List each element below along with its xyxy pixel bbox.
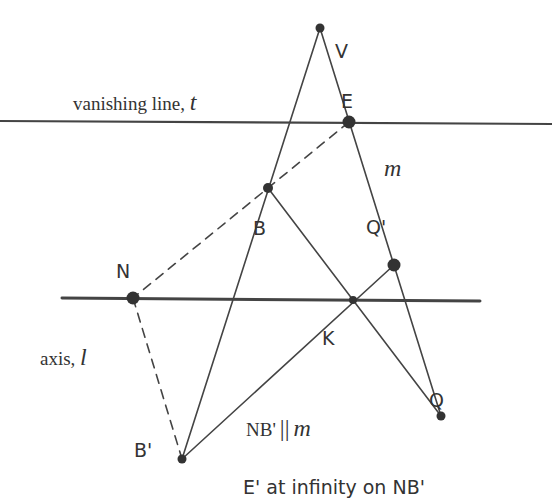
point-Qprime <box>388 259 401 272</box>
axis-label: axis, l <box>40 345 87 369</box>
label-Bprime: B' <box>134 441 152 460</box>
point-Q <box>437 412 446 421</box>
parallel-annotation: NB' || m <box>246 416 311 440</box>
vanishing-line-t <box>0 121 552 124</box>
infinity-note: E' at infinity on NB' <box>243 478 425 497</box>
axis-label-text: axis, <box>40 348 80 369</box>
point-N <box>127 292 140 305</box>
label-B: B <box>253 219 266 238</box>
axis-line-l <box>62 298 480 301</box>
vanishing-line-var-t: t <box>190 89 197 115</box>
point-K <box>349 296 357 304</box>
vanishing-line-label: vanishing line, t <box>73 90 196 114</box>
dashed-line-E-N <box>133 122 349 298</box>
point-Bprime <box>178 455 187 464</box>
label-K: K <box>322 329 334 348</box>
point-B <box>263 183 273 193</box>
point-E <box>343 116 356 129</box>
label-E: E <box>341 92 353 111</box>
parallel-left: NB' <box>246 419 276 440</box>
vanishing-line-label-text: vanishing line, <box>73 93 190 114</box>
line-m-label: m <box>384 156 401 180</box>
line-V-Bprime <box>182 28 320 459</box>
label-Qprime: Q' <box>366 218 386 237</box>
label-N: N <box>116 262 130 281</box>
axis-var-l: l <box>80 344 87 370</box>
diagram-canvas: V E B Q' N K Q B' vanishing line, t m ax… <box>0 0 552 504</box>
point-V <box>316 24 325 33</box>
dashed-line-N-Bprime <box>133 298 182 459</box>
label-V: V <box>335 42 348 61</box>
parallel-symbol: || <box>280 415 290 441</box>
parallel-right: m <box>293 415 310 441</box>
label-Q: Q <box>429 391 444 410</box>
